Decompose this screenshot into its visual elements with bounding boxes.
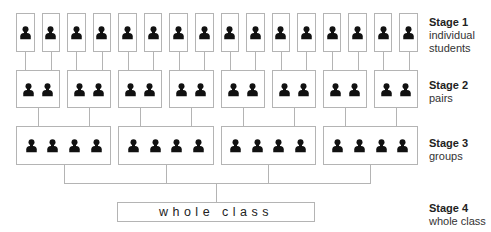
person-icon [330,138,345,153]
person-icon [376,25,391,40]
whole-class-label: whole class [159,205,273,219]
connector-line [370,165,371,183]
stage-4-title: Stage 4 [429,202,486,215]
stage-2-subtitle: pairs [429,92,468,105]
connector-line [268,165,269,183]
connector-line [409,52,410,70]
stage-2-box [118,70,162,108]
person-icon [40,82,55,97]
person-icon [352,138,367,153]
stage-1-box [93,13,112,52]
person-icon [174,82,189,97]
stage-1-box [144,13,163,52]
person-icon [398,82,413,97]
person-icon [228,138,243,153]
person-icon [169,138,184,153]
person-icon [395,138,410,153]
stage-1-box [118,13,137,52]
person-icon [350,25,365,40]
connector-line [383,52,384,70]
person-icon [142,82,157,97]
person-icon [45,138,60,153]
stage-1-box [348,13,367,52]
person-icon [123,82,138,97]
person-icon [245,82,260,97]
stage-1-box [323,13,342,52]
person-icon [89,138,104,153]
connector-line [76,52,77,70]
stage-3-box [221,126,316,165]
person-icon [72,82,87,97]
connector-line [140,108,141,126]
whole-class-box: whole class [117,202,315,222]
connector-line [306,52,307,70]
connector-line [230,52,231,70]
person-icon [226,82,241,97]
connector-line [38,108,39,126]
person-icon [191,138,206,153]
person-icon [222,25,237,40]
stage-3-subtitle: groups [429,150,468,163]
connector-line [89,108,90,126]
person-icon [69,25,84,40]
person-icon [271,138,286,153]
stage-3-title: Stage 3 [429,137,468,150]
person-icon [248,25,263,40]
person-icon [273,25,288,40]
person-icon [293,138,308,153]
connector-line [64,165,65,183]
person-icon [171,25,186,40]
stage-2-box [16,70,60,108]
connector-line [345,108,346,126]
connector-line [102,52,103,70]
person-icon [296,82,311,97]
person-icon [374,138,389,153]
connector-line [281,52,282,70]
person-icon [43,25,58,40]
person-icon [197,25,212,40]
stage-1-box [195,13,214,52]
stage-2-title: Stage 2 [429,79,468,92]
stage-2-box [374,70,418,108]
connector-line [128,52,129,70]
connector-line [179,52,180,70]
stage-3-box [323,126,418,165]
connector-line [255,52,256,70]
person-icon [24,138,39,153]
connector-line [166,165,167,183]
stage-1-box [272,13,291,52]
person-icon [94,25,109,40]
stage-4-label: Stage 4 whole class [429,202,486,228]
stage-2-box [221,70,265,108]
person-icon [126,138,141,153]
connector-line [51,52,52,70]
stage-3-box [16,126,111,165]
person-icon [193,82,208,97]
stage-2-box [323,70,367,108]
person-icon [325,25,340,40]
person-icon [328,82,343,97]
connector-line [153,52,154,70]
stage-2-box [272,70,316,108]
stage-2-box [67,70,111,108]
stage-1-box [399,13,418,52]
connector-line [396,108,397,126]
connector-line [294,108,295,126]
connector-line [358,52,359,70]
stage-1-box [169,13,188,52]
stage-2-label: Stage 2 pairs [429,79,468,105]
connector-line [204,52,205,70]
stage-1-box [67,13,86,52]
stage-1-subtitle-line-2: students [429,42,475,55]
stage-1-label: Stage 1 individual students [429,16,475,55]
stage-3-label: Stage 3 groups [429,137,468,163]
person-icon [146,25,161,40]
connector-line [243,108,244,126]
stage-4-subtitle: whole class [429,215,486,228]
stage-1-box [42,13,61,52]
connector-bus-line [64,183,371,184]
person-icon [148,138,163,153]
person-icon [120,25,135,40]
stage-2-box [169,70,213,108]
connector-line [332,52,333,70]
